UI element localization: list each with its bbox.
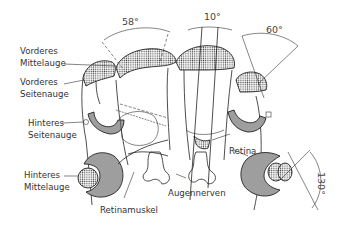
label-hinteres-mittelauge-2: Mittelauge xyxy=(24,182,70,192)
spider-eye-diagram: 58° 10° 60° 130° Vorderes Mittelauge Vor… xyxy=(0,0,347,228)
anterior-median-eye-right xyxy=(176,46,235,70)
anterior-lateral-eye-left xyxy=(83,61,115,86)
label-retinamuskel: Retinamuskel xyxy=(100,205,158,215)
anterior-lateral-eye-right xyxy=(236,72,267,92)
angle-60-label: 60° xyxy=(266,24,283,35)
posterior-lateral-eye-left xyxy=(84,112,125,134)
anterior-median-eye-left xyxy=(116,49,176,78)
label-hinteres-seitenauge-2: Seitenauge xyxy=(28,130,77,140)
label-vorderes-mittelauge-1: Vorderes xyxy=(20,46,58,56)
label-augennerven: Augennerven xyxy=(168,188,226,198)
angle-10: 10° xyxy=(188,11,232,200)
labels: Vorderes Mittelauge Vorderes Seitenauge … xyxy=(20,46,256,215)
retina-muscle-region xyxy=(116,104,168,164)
label-vorderes-mittelauge-2: Mittelauge xyxy=(20,58,66,68)
label-hinteres-seitenauge-1: Hinteres xyxy=(28,118,65,128)
posterior-median-eye-right xyxy=(241,153,292,196)
angle-130-label: 130° xyxy=(316,172,327,195)
label-hinteres-mittelauge-1: Hinteres xyxy=(24,170,61,180)
retina-right-tube xyxy=(186,130,224,149)
optic-nerves xyxy=(143,152,215,184)
angle-58-label: 58° xyxy=(122,16,139,27)
posterior-lateral-eye-right xyxy=(228,110,271,132)
posterior-median-eye-left xyxy=(78,153,123,197)
label-vorderes-seitenauge-2: Seitenauge xyxy=(20,89,69,99)
angle-10-label: 10° xyxy=(204,11,221,22)
label-retina: Retina xyxy=(229,146,256,156)
label-vorderes-seitenauge-1: Vorderes xyxy=(20,77,58,87)
